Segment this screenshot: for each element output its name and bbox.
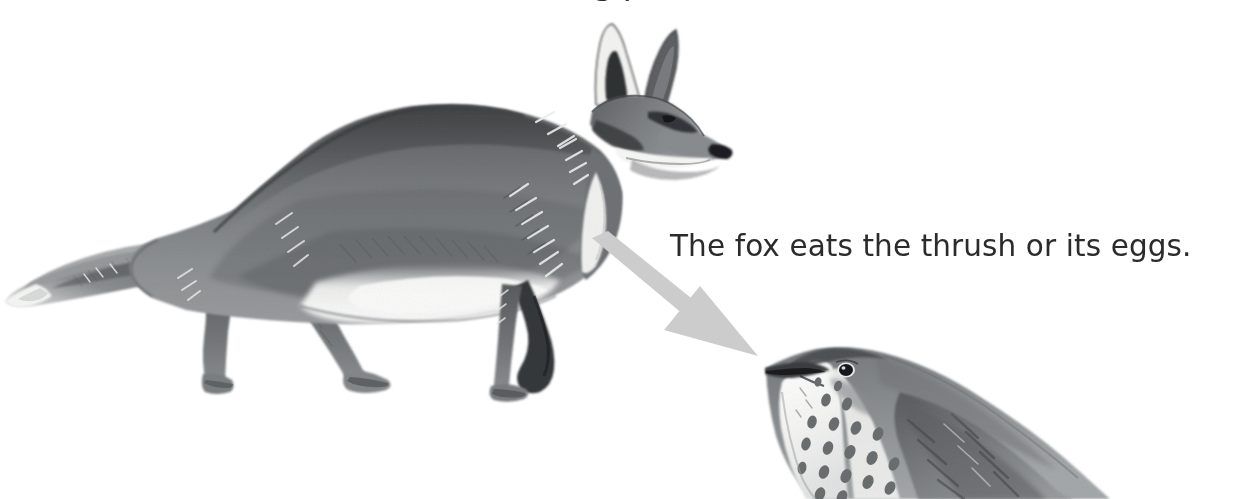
illustration-page: g p [0,0,1236,499]
caption-text: The fox eats the thrush or its eggs. [670,227,1215,265]
